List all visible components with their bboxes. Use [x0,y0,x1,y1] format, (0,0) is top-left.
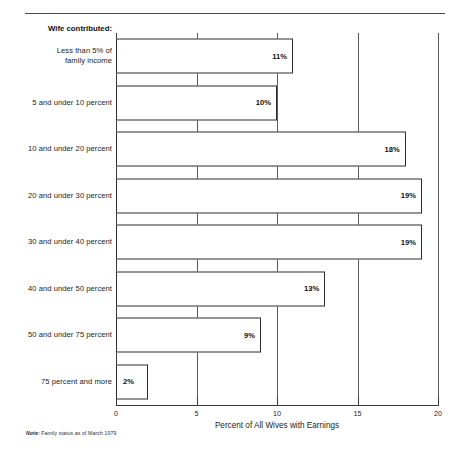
bar-row: 5 and under 10 percent10% [0,80,466,127]
bar-row: 20 and under 30 percent19% [0,173,466,220]
bar: 9% [116,318,261,353]
bar-value-label: 2% [123,377,134,386]
plot-area: Less than 5% offamily income11%5 and und… [0,0,466,450]
bar-value-label: 10% [256,98,271,107]
category-label: 5 and under 10 percent [0,98,112,108]
chart-figure: Wife contributed: Less than 5% offamily … [0,0,466,450]
bar-value-label: 13% [304,284,319,293]
category-label: Less than 5% offamily income [0,47,112,66]
category-label: 20 and under 30 percent [0,191,112,201]
x-tick-label: 20 [434,409,442,418]
footnote-label: Note: [26,430,40,436]
bar-row: 30 and under 40 percent19% [0,219,466,266]
bar-value-label: 11% [272,52,287,61]
bar-value-label: 18% [385,145,400,154]
bar-row: Less than 5% offamily income11% [0,33,466,80]
bar-value-label: 19% [401,238,416,247]
footnote-text: Family status as of March 1979 [41,430,116,436]
bar: 13% [116,271,325,306]
bar-row: 40 and under 50 percent13% [0,266,466,313]
bar-value-label: 9% [244,331,255,340]
footnote: Note: Family status as of March 1979 [26,430,116,436]
x-tick-label: 15 [354,409,362,418]
x-axis-label: Percent of All Wives with Earnings [116,421,438,430]
bar: 2% [116,364,148,399]
bar-row: 50 and under 75 percent9% [0,312,466,359]
x-tick-0 [116,397,117,406]
x-tick-label: 10 [273,409,281,418]
category-label: 30 and under 40 percent [0,237,112,247]
x-tick-10 [277,397,278,406]
x-tick-label: 5 [195,409,199,418]
x-tick-5 [197,397,198,406]
category-label: 10 and under 20 percent [0,144,112,154]
bar: 18% [116,132,406,167]
bar: 19% [116,178,422,213]
x-tick-label: 0 [114,409,118,418]
bar: 11% [116,39,293,74]
bar-rows: Less than 5% offamily income11%5 and und… [0,33,466,405]
bar-value-label: 19% [401,191,416,200]
bar: 10% [116,85,277,120]
x-tick-15 [358,397,359,406]
bar-row: 75 percent and more2% [0,359,466,406]
category-label: 50 and under 75 percent [0,330,112,340]
bar: 19% [116,225,422,260]
x-tick-20 [438,397,439,406]
category-label: 40 and under 50 percent [0,284,112,294]
category-label: 75 percent and more [0,377,112,387]
bar-row: 10 and under 20 percent18% [0,126,466,173]
